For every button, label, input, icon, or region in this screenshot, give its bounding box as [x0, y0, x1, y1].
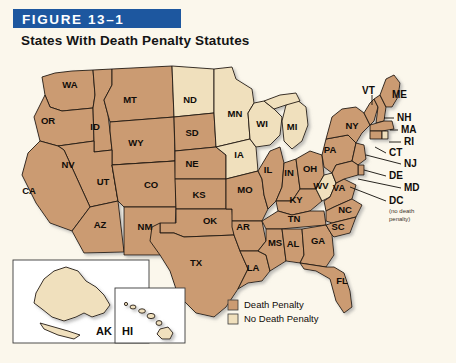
state-label-ID: ID: [90, 121, 100, 132]
state-NE: [175, 147, 226, 179]
state-label-MO: MO: [237, 184, 252, 195]
state-label-LA: LA: [247, 262, 260, 273]
outer-state-label-CT: CT: [389, 147, 402, 158]
dc-note-line-1: (no death: [389, 208, 414, 214]
state-GA: [300, 225, 334, 267]
state-RI: [382, 131, 388, 139]
state-CT: [370, 131, 382, 139]
outer-state-label-RI: RI: [404, 136, 414, 147]
state-label-NY: NY: [345, 120, 359, 131]
outer-state-label-MD: MD: [404, 182, 420, 193]
map-legend: Death Penalty No Death Penalty: [228, 299, 319, 324]
state-label-OH: OH: [303, 163, 317, 174]
hawaii-inset: HI: [115, 288, 185, 343]
inset-label-HI: HI: [122, 325, 133, 337]
state-label-PA: PA: [324, 144, 337, 155]
state-label-CA: CA: [22, 185, 36, 196]
state-label-MI: MI: [287, 121, 298, 132]
legend-label-no-death: No Death Penalty: [244, 313, 319, 324]
state-label-OR: OR: [41, 115, 55, 126]
legend-swatch-no-death: [228, 314, 238, 324]
state-label-IL: IL: [264, 164, 273, 175]
state-ND: [172, 66, 214, 117]
state-label-SC: SC: [331, 221, 344, 232]
state-label-VA: VA: [333, 182, 346, 193]
state-label-TX: TX: [190, 257, 203, 268]
state-label-AL: AL: [287, 238, 300, 249]
state-label-AZ: AZ: [94, 219, 107, 230]
state-label-UT: UT: [97, 176, 110, 187]
state-label-AR: AR: [236, 221, 250, 232]
figure-number-label: FIGURE 13–1: [22, 12, 124, 27]
state-label-NC: NC: [338, 204, 352, 215]
state-label-WI: WI: [256, 118, 268, 129]
state-FL: [300, 263, 352, 313]
outer-state-label-DC: DC: [389, 195, 403, 206]
legend-label-death: Death Penalty: [244, 299, 304, 310]
outer-state-label-NJ: NJ: [404, 158, 417, 169]
state-label-ND: ND: [183, 94, 197, 105]
figure-container: FIGURE 13–1 States With Death Penalty St…: [0, 0, 456, 363]
state-label-FL: FL: [336, 275, 348, 286]
state-DE: [358, 165, 364, 175]
state-label-TN: TN: [288, 213, 301, 224]
state-label-WA: WA: [62, 79, 77, 90]
state-label-MS: MS: [268, 237, 282, 248]
state-label-IA: IA: [234, 149, 244, 160]
map-svg: WAORIDMTWYNVUTCAAZCONMNDSDNEKSOKTXMNIAMO…: [0, 55, 456, 363]
figure-banner: FIGURE 13–1: [13, 9, 181, 28]
state-label-WY: WY: [128, 137, 144, 148]
state-label-WV: WV: [313, 180, 329, 191]
state-MT: [104, 66, 174, 122]
outer-state-label-ME: ME: [392, 89, 407, 100]
state-WA: [42, 70, 95, 111]
dc-note-line-2: penalty): [389, 216, 410, 222]
outer-state-label-MA: MA: [401, 124, 417, 135]
state-label-NV: NV: [61, 159, 75, 170]
outer-state-label-VT: VT: [362, 85, 375, 96]
state-MA: [370, 121, 394, 131]
state-label-NM: NM: [138, 221, 153, 232]
state-label-MT: MT: [123, 94, 137, 105]
state-label-KS: KS: [192, 189, 205, 200]
state-label-IN: IN: [284, 167, 294, 178]
outer-state-label-DE: DE: [389, 170, 403, 181]
us-map: WAORIDMTWYNVUTCAAZCONMNDSDNEKSOKTXMNIAMO…: [0, 55, 456, 363]
legend-swatch-death: [228, 300, 238, 310]
outer-state-label-NH: NH: [397, 112, 411, 123]
state-label-GA: GA: [311, 235, 325, 246]
state-label-SD: SD: [185, 127, 198, 138]
state-label-MN: MN: [228, 108, 243, 119]
state-label-CO: CO: [144, 179, 158, 190]
state-label-KY: KY: [289, 194, 303, 205]
figure-title: States With Death Penalty Statutes: [21, 33, 250, 48]
inset-label-AK: AK: [96, 325, 112, 337]
state-label-NE: NE: [185, 158, 198, 169]
state-label-OK: OK: [203, 215, 217, 226]
